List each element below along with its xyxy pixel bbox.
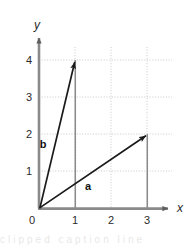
vector-b-label: b bbox=[40, 138, 47, 150]
x-tick-label-3: 3 bbox=[144, 214, 150, 226]
origin-label: 0 bbox=[29, 214, 35, 226]
vector-plot-svg: 4 3 2 1 1 2 3 0 y x b a bbox=[0, 0, 190, 246]
vector-a-label: a bbox=[85, 180, 92, 192]
y-tick-label-3: 3 bbox=[26, 91, 32, 103]
vector-diagram-figure: 4 3 2 1 1 2 3 0 y x b a clipped caption … bbox=[0, 0, 190, 246]
clipped-caption-artifact: clipped caption line bbox=[0, 234, 190, 246]
y-axis-label: y bbox=[33, 18, 41, 32]
x-axis-label: x bbox=[176, 201, 184, 215]
y-tick-label-1: 1 bbox=[26, 165, 32, 177]
x-tick-label-1: 1 bbox=[72, 214, 78, 226]
y-tick-label-4: 4 bbox=[26, 54, 32, 66]
y-tick-label-2: 2 bbox=[26, 128, 32, 140]
x-tick-label-2: 2 bbox=[108, 214, 114, 226]
